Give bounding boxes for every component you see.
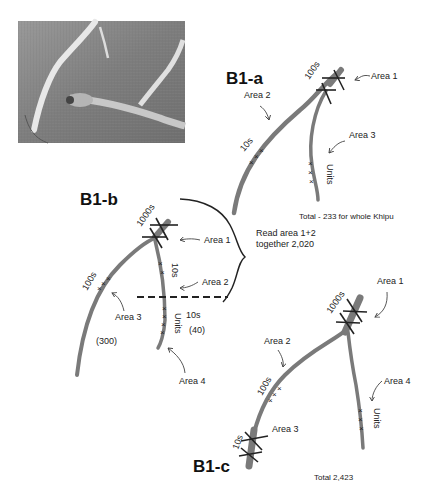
brace-note-line-1: Read area 1+2	[256, 228, 316, 238]
place-label-100s: 100s	[302, 59, 322, 81]
arrow-icon	[372, 381, 382, 401]
area-1-label: Area 1	[204, 235, 231, 245]
place-label-units: Units	[173, 313, 183, 334]
khipu-diagram: B1-a × × × × × × 100s 10s Units Area 1 A…	[0, 0, 427, 493]
value-40: (40)	[189, 325, 205, 335]
arrow-icon	[278, 350, 283, 367]
area-3-label: Area 3	[115, 312, 142, 322]
place-label-10s-upper: 10s	[170, 263, 180, 278]
arrow-icon	[180, 239, 200, 240]
panel-title: B1-c	[193, 457, 230, 476]
arrow-icon	[180, 282, 198, 288]
cord-main	[77, 238, 155, 375]
total-label: Total - 233 for whole Khipu	[299, 212, 394, 221]
place-label-units: Units	[325, 164, 335, 185]
place-label-10s: 10s	[230, 433, 245, 451]
area-2-label: Area 2	[264, 336, 291, 346]
arrow-icon	[168, 348, 185, 373]
svg-text:×: ×	[308, 168, 313, 177]
arrow-icon	[260, 106, 269, 120]
place-label-10s: 10s	[238, 135, 255, 153]
total-label: Total 2,423	[314, 473, 354, 482]
area-3-label: Area 3	[349, 130, 376, 140]
panel-b1-a: B1-a × × × × × × 100s 10s Units Area 1 A…	[226, 59, 398, 221]
area-4-label: Area 4	[384, 376, 411, 386]
svg-text:×: ×	[160, 268, 165, 277]
svg-text:×: ×	[106, 274, 111, 283]
area-3-label: Area 3	[272, 424, 299, 434]
place-label-100s: 100s	[80, 270, 99, 292]
arrow-icon	[355, 75, 370, 80]
svg-text:×: ×	[259, 146, 264, 155]
area-2-label: Area 2	[244, 90, 271, 100]
svg-text:×: ×	[309, 177, 314, 186]
svg-text:×: ×	[358, 406, 363, 415]
panel-b1-b: B1-b × × × × × × × × × 1000s 100s 10s Un…	[77, 190, 316, 386]
arrow-icon	[329, 141, 345, 153]
place-label-10s-side: 10s	[186, 310, 201, 320]
panel-b1-c: B1-c × × × × × × 1000s 100s 10s Units Ar…	[193, 276, 411, 482]
svg-text:×: ×	[158, 259, 163, 268]
brace-note-line-2: together 2,020	[256, 239, 314, 249]
svg-text:×: ×	[160, 328, 165, 337]
svg-text:×: ×	[358, 415, 363, 424]
khipu-photo	[18, 21, 185, 143]
area-1-label: Area 1	[377, 276, 404, 286]
area-2-label: Area 2	[202, 277, 229, 287]
place-label-units: Units	[372, 408, 382, 429]
arrow-icon	[112, 293, 124, 311]
svg-text:×: ×	[359, 424, 364, 433]
svg-text:×: ×	[277, 384, 282, 393]
area-4-label: Area 4	[179, 376, 206, 386]
arrow-icon	[375, 292, 387, 317]
area-1-label: Area 1	[371, 71, 398, 81]
panel-title: B1-b	[80, 190, 118, 209]
svg-text:×: ×	[308, 159, 313, 168]
panel-title: B1-a	[226, 69, 263, 88]
value-300: (300)	[96, 336, 117, 346]
